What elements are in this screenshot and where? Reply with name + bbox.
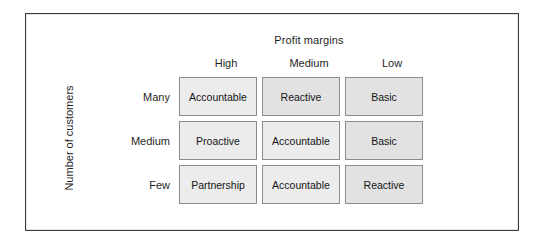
matrix-cell-few-medium: Accountable [262, 165, 340, 204]
row-header-medium: Medium [86, 135, 179, 147]
column-header-row: High Medium Low [187, 57, 431, 69]
matrix-cell-few-high: Partnership [179, 165, 257, 204]
matrix-diagram: Profit margins High Medium Low Number of… [26, 14, 520, 232]
matrix-cell-medium-medium: Accountable [262, 121, 340, 160]
matrix-cell-medium-high: Proactive [179, 121, 257, 160]
column-header-low: Low [353, 57, 431, 69]
matrix-cell-few-low: Reactive [345, 165, 423, 204]
matrix-cell-many-low: Basic [345, 77, 423, 116]
row-header-few: Few [86, 179, 179, 191]
matrix-cell-many-medium: Reactive [262, 77, 340, 116]
matrix-row: Medium Proactive Accountable Basic [86, 121, 423, 160]
matrix-row: Many Accountable Reactive Basic [86, 77, 423, 116]
matrix-row: Few Partnership Accountable Reactive [86, 165, 423, 204]
y-axis-title: Number of customers [63, 58, 75, 218]
column-header-medium: Medium [270, 57, 348, 69]
chart-title: Profit margins [187, 34, 431, 46]
matrix-cell-many-high: Accountable [179, 77, 257, 116]
matrix-cell-medium-low: Basic [345, 121, 423, 160]
column-header-high: High [187, 57, 265, 69]
row-header-many: Many [86, 91, 179, 103]
matrix-grid: Many Accountable Reactive Basic Medium P… [86, 77, 423, 204]
figure-frame: Profit margins High Medium Low Number of… [25, 13, 519, 231]
